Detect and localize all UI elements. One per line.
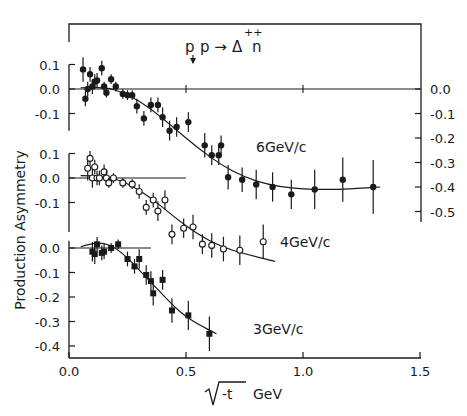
x-tick-label: 0.0 bbox=[59, 364, 80, 379]
y-tick-label-right: -0.5 bbox=[430, 205, 455, 220]
data-point bbox=[169, 307, 175, 313]
data-point bbox=[150, 197, 156, 203]
data-point bbox=[173, 124, 179, 130]
data-point bbox=[288, 191, 294, 197]
label-4gev: 4GeV/c bbox=[280, 234, 330, 250]
data-point bbox=[190, 224, 196, 230]
data-point bbox=[108, 245, 114, 251]
data-point bbox=[106, 180, 112, 186]
data-point bbox=[129, 92, 135, 98]
svg-text:p →: p → bbox=[200, 38, 227, 56]
svg-text:p: p bbox=[185, 38, 195, 56]
data-point bbox=[209, 242, 215, 248]
x-tick-label: 1.5 bbox=[410, 364, 431, 379]
y-tick-label: -0.4 bbox=[35, 339, 60, 354]
data-point bbox=[94, 241, 100, 247]
data-point bbox=[92, 251, 98, 257]
data-point bbox=[96, 175, 102, 181]
fit-curve bbox=[81, 243, 217, 334]
data-point bbox=[136, 188, 142, 194]
data-point bbox=[92, 164, 98, 170]
label-6gev: 6GeV/c bbox=[256, 139, 306, 155]
data-point bbox=[166, 127, 172, 133]
data-point bbox=[159, 114, 165, 120]
axes: 0.00.51.01.50.10.0-0.10.10.0-0.10.0-0.1-… bbox=[35, 58, 456, 380]
asymmetry-chart: p p → Δ ++ n 0.00.51.01.50.10.0-0.10.10.… bbox=[0, 0, 467, 416]
data-point bbox=[134, 103, 140, 109]
svg-text:-t: -t bbox=[222, 386, 233, 402]
data-point bbox=[120, 180, 126, 186]
series-6GeV/c bbox=[69, 57, 420, 214]
data-point bbox=[103, 89, 109, 95]
data-point bbox=[143, 204, 149, 210]
series-3GeV/c bbox=[69, 237, 216, 351]
data-point bbox=[155, 208, 161, 214]
data-point bbox=[239, 176, 245, 182]
data-point bbox=[129, 181, 135, 187]
y-tick-label-right: -0.1 bbox=[430, 107, 455, 122]
data-point bbox=[143, 272, 149, 278]
data-point bbox=[162, 197, 168, 203]
data-point bbox=[160, 277, 166, 283]
data-point bbox=[218, 142, 224, 148]
data-point bbox=[108, 76, 114, 82]
data-point bbox=[85, 165, 91, 171]
data-point bbox=[185, 312, 191, 318]
x-tick-label: 0.5 bbox=[176, 364, 197, 379]
data-point bbox=[125, 256, 131, 262]
data-point bbox=[253, 181, 259, 187]
data-point bbox=[80, 66, 86, 72]
y-tick-label: -0.2 bbox=[35, 290, 60, 305]
data-point bbox=[115, 241, 121, 247]
label-3gev: 3GeV/c bbox=[253, 321, 303, 337]
data-point bbox=[220, 246, 226, 252]
data-point bbox=[199, 241, 205, 247]
data-point bbox=[169, 231, 175, 237]
chart-title: p p → Δ ++ n bbox=[185, 26, 262, 64]
data-point bbox=[87, 155, 93, 161]
svg-text:Δ: Δ bbox=[232, 38, 243, 56]
data-series bbox=[69, 57, 420, 351]
data-point bbox=[148, 102, 154, 108]
data-point bbox=[136, 256, 142, 262]
y-tick-label: -0.1 bbox=[35, 107, 60, 122]
data-point bbox=[185, 119, 191, 125]
data-point bbox=[181, 225, 187, 231]
y-tick-label-right: -0.4 bbox=[430, 180, 455, 195]
y-tick-label-right: 0.0 bbox=[430, 82, 451, 97]
data-point bbox=[94, 77, 100, 83]
svg-text:GeV: GeV bbox=[253, 386, 282, 402]
y-tick-label: 0.0 bbox=[39, 82, 60, 97]
data-point bbox=[87, 71, 93, 77]
data-point bbox=[206, 331, 212, 337]
data-point bbox=[99, 65, 105, 71]
y-tick-label: -0.1 bbox=[35, 196, 60, 211]
data-point bbox=[312, 186, 318, 192]
x-tick-label: 1.0 bbox=[293, 364, 314, 379]
data-point bbox=[260, 239, 266, 245]
data-point bbox=[150, 290, 156, 296]
y-tick-label: -0.1 bbox=[35, 266, 60, 281]
y-tick-label: -0.3 bbox=[35, 315, 60, 330]
y-tick-label: 0.0 bbox=[39, 241, 60, 256]
data-point bbox=[269, 184, 275, 190]
data-point bbox=[209, 152, 215, 158]
data-point bbox=[113, 83, 119, 89]
y-tick-label-right: -0.3 bbox=[430, 156, 455, 171]
svg-text:n: n bbox=[252, 38, 262, 56]
y-tick-label: 0.1 bbox=[39, 147, 60, 162]
data-point bbox=[370, 184, 376, 190]
data-point bbox=[141, 115, 147, 121]
data-point bbox=[202, 142, 208, 148]
y-tick-label-right: -0.2 bbox=[430, 131, 455, 146]
data-point bbox=[155, 102, 161, 108]
fit-curve bbox=[81, 87, 381, 189]
data-point bbox=[132, 263, 138, 269]
data-point bbox=[82, 96, 88, 102]
x-axis-title: -t GeV bbox=[205, 382, 282, 405]
data-point bbox=[237, 247, 243, 253]
y-axis-title: Production Asymmetry bbox=[12, 150, 28, 310]
data-point bbox=[110, 175, 116, 181]
data-point bbox=[340, 176, 346, 182]
y-tick-label: 0.0 bbox=[39, 171, 60, 186]
